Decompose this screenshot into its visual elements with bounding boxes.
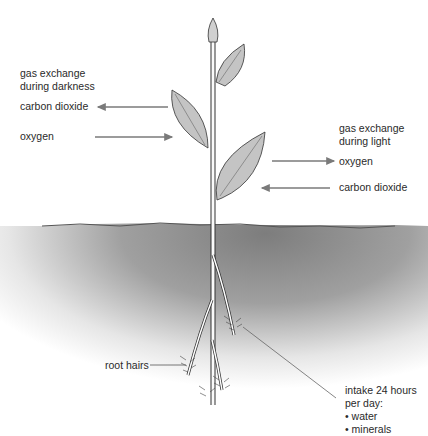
darkness-o2-label: oxygen [20,130,54,143]
darkness-co2-label: carbon dioxide [20,100,88,113]
darkness-heading-line2: during darkness [20,80,95,93]
light-co2-label: carbon dioxide [339,181,407,194]
light-heading-line2: during light [339,135,404,148]
light-heading-line1: gas exchange [339,122,404,135]
bud [208,18,218,42]
light-heading: gas exchange during light [339,122,404,148]
intake-item-minerals: • minerals [345,423,417,436]
darkness-heading-line1: gas exchange [20,67,95,80]
root-hairs-label: root hairs [105,359,149,372]
intake-label: intake 24 hours per day: • water • miner… [345,384,417,436]
darkness-heading: gas exchange during darkness [20,67,95,93]
intake-item-water: • water [345,410,417,423]
intake-line1: intake 24 hours [345,384,417,397]
light-o2-label: oxygen [339,155,373,168]
intake-line2: per day: [345,397,417,410]
